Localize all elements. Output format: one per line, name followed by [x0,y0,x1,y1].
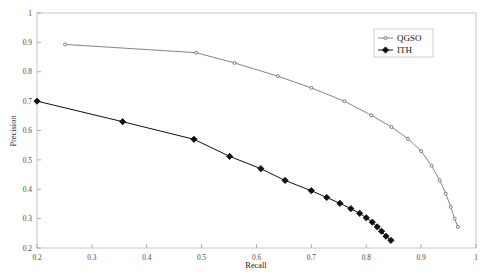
data-point-qgso-11 [438,179,441,182]
series-ith [34,98,394,243]
data-point-qgso-6 [370,114,373,117]
data-point-qgso-13 [449,205,452,208]
plot-canvas: 0.20.30.40.50.60.70.80.91 0.20.30.40.50.… [0,0,493,277]
y-tick-label: 0.8 [23,67,33,76]
x-tick-label: 0.7 [307,253,317,262]
data-point-qgso-0 [63,43,66,46]
data-point-qgso-8 [406,137,409,140]
data-point-ith-9 [348,206,354,212]
y-tick-label: 0.7 [23,97,33,106]
data-point-ith-10 [357,210,363,216]
precision-recall-figure: 0.20.30.40.50.60.70.80.91 0.20.30.40.50.… [0,0,493,277]
data-point-ith-5 [282,177,288,183]
data-point-qgso-10 [430,164,433,167]
data-point-qgso-7 [390,125,393,128]
data-point-ith-6 [308,188,314,194]
y-tick-label: 0.5 [23,156,33,165]
x-tick-label: 0.2 [32,253,42,262]
y-axis-ticks: 0.20.30.40.50.60.70.80.91 [23,9,41,253]
x-axis-ticks: 0.20.30.40.50.60.70.80.91 [32,244,478,262]
y-tick-label: 0.4 [23,185,33,194]
data-point-ith-1 [120,119,126,125]
legend-marker-qgso [384,37,387,40]
y-tick-label: 0.2 [23,244,33,253]
series-qgso [63,43,459,228]
y-tick-label: 0.9 [23,38,33,47]
x-axis-title: Recall [245,261,267,270]
y-axis-title: Precision [9,115,18,147]
data-point-ith-7 [324,194,330,200]
x-tick-label: 0.8 [362,253,372,262]
legend[interactable]: QGSOITH [374,29,433,57]
data-point-qgso-3 [276,75,279,78]
data-point-ith-4 [258,166,264,172]
x-tick-label: 1 [474,253,478,262]
data-point-ith-3 [227,153,233,159]
series-line-qgso [65,44,458,226]
y-tick-label: 1 [28,9,32,18]
data-point-qgso-12 [444,192,447,195]
data-point-qgso-14 [453,217,456,220]
legend-label-ith: ITH [397,45,412,55]
y-tick-label: 0.6 [23,126,33,135]
data-point-ith-8 [337,200,343,206]
legend-label-qgso: QGSO [397,33,422,43]
series-line-ith [37,101,391,240]
data-point-qgso-1 [195,51,198,54]
data-point-ith-2 [191,136,197,142]
x-tick-label: 0.9 [417,253,427,262]
data-point-ith-0 [34,98,40,104]
x-tick-label: 0.3 [87,253,97,262]
data-point-qgso-4 [310,86,313,89]
x-tick-label: 0.5 [197,253,207,262]
data-point-qgso-2 [233,61,236,64]
data-series-layer [34,43,459,244]
data-point-qgso-9 [420,150,423,153]
data-point-qgso-15 [456,225,459,228]
y-tick-label: 0.3 [23,214,33,223]
x-tick-label: 0.4 [142,253,152,262]
data-point-qgso-5 [343,100,346,103]
